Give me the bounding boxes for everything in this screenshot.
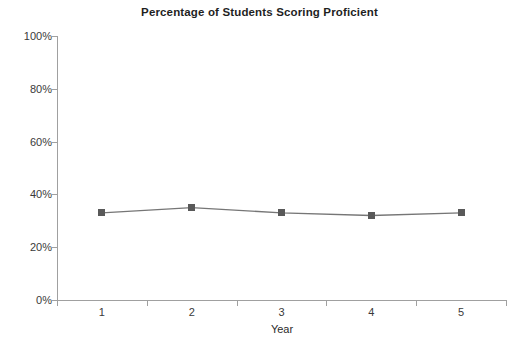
x-axis-title: Year [57, 323, 507, 336]
chart-container: Percentage of Students Scoring Proficien… [0, 0, 519, 352]
data-point-marker [98, 209, 105, 216]
data-point-marker [278, 209, 285, 216]
data-point-marker [188, 204, 195, 211]
data-point-marker [458, 209, 465, 216]
data-point-marker [368, 212, 375, 219]
series-line [0, 0, 519, 352]
